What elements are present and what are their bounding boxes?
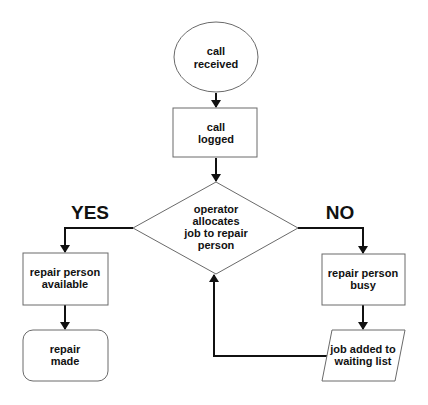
node-label: operator — [194, 203, 239, 215]
node-repair-made: repair made — [23, 330, 108, 381]
flowchart: call received call logged operator alloc… — [0, 0, 428, 405]
node-label: allocates — [192, 215, 239, 227]
node-label: job added to — [329, 343, 396, 355]
node-label: waiting list — [334, 355, 392, 367]
edge-decision-no — [298, 228, 363, 253]
edge-decision-yes — [65, 228, 133, 252]
node-label: repair person — [30, 266, 101, 278]
node-label: job to repair — [183, 227, 248, 239]
node-decision-diamond: operator allocates job to repair person — [133, 182, 298, 274]
node-label: call — [207, 45, 225, 57]
node-repair-person-busy: repair person busy — [322, 254, 405, 305]
node-label: busy — [350, 279, 377, 291]
node-label: call — [207, 121, 225, 133]
node-label: received — [194, 58, 239, 70]
node-label: repair person — [328, 267, 399, 279]
node-call-logged: call logged — [173, 108, 257, 157]
no-label: NO — [326, 202, 355, 223]
node-repair-person-available: repair person available — [23, 253, 108, 305]
yes-label: YES — [71, 202, 109, 223]
node-job-added-to-waiting-list: job added to waiting list — [322, 330, 405, 381]
node-label: logged — [198, 133, 234, 145]
node-call-received: call received — [174, 22, 258, 92]
node-label: person — [198, 239, 235, 251]
edge-waiting-to-decision — [214, 275, 327, 356]
node-label: available — [42, 278, 88, 290]
node-label: made — [51, 355, 80, 367]
node-label: repair — [50, 343, 81, 355]
